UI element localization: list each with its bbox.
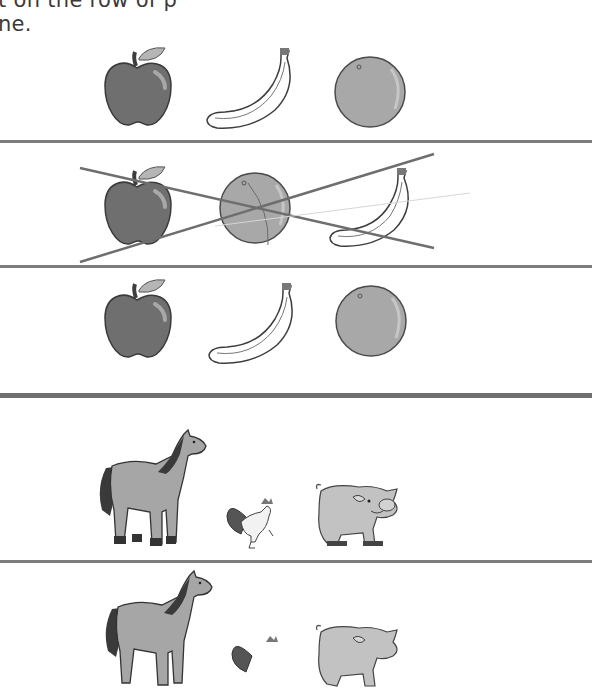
section-divider-line <box>0 393 592 398</box>
banana-icon <box>207 283 297 365</box>
pig-icon <box>313 624 403 691</box>
divider-line <box>0 265 592 268</box>
divider-line <box>0 560 592 563</box>
pig-icon <box>313 483 403 551</box>
rooster-icon <box>225 494 277 550</box>
horse-icon <box>92 428 212 550</box>
apple-icon <box>103 278 173 360</box>
orange-icon <box>334 284 408 358</box>
horse-icon <box>98 569 218 691</box>
rooster-icon <box>230 632 282 688</box>
